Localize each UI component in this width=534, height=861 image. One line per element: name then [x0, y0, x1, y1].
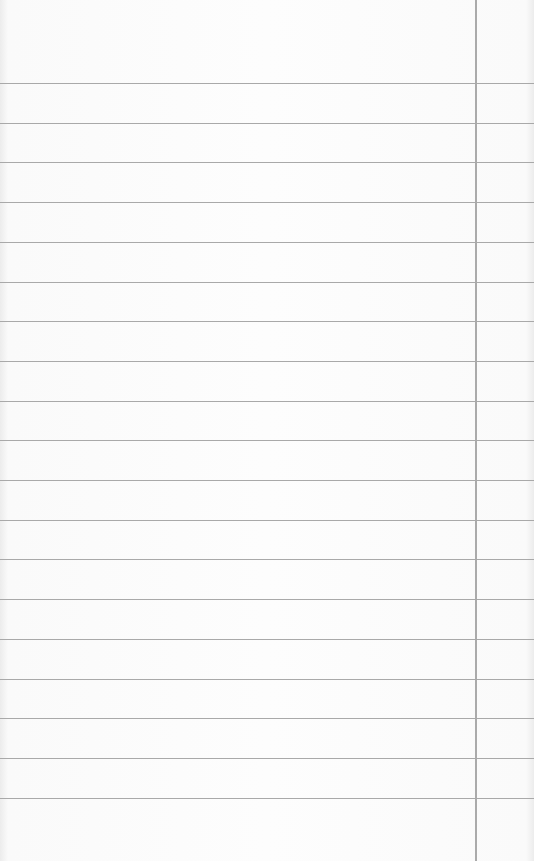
ruled-line — [0, 599, 534, 600]
ruled-line — [0, 202, 534, 203]
ruled-line — [0, 361, 534, 362]
ruled-line — [0, 718, 534, 719]
ruled-line — [0, 639, 534, 640]
ruled-line — [0, 520, 534, 521]
ruled-line — [0, 798, 534, 799]
ruled-line — [0, 282, 534, 283]
ruled-line — [0, 758, 534, 759]
ruled-line — [0, 83, 534, 84]
margin-line — [475, 0, 477, 861]
ruled-line — [0, 440, 534, 441]
ruled-line — [0, 559, 534, 560]
ruled-line — [0, 679, 534, 680]
ruled-line — [0, 162, 534, 163]
ruled-line — [0, 321, 534, 322]
ruled-line — [0, 401, 534, 402]
ruled-line — [0, 242, 534, 243]
ruled-line — [0, 123, 534, 124]
ruled-line — [0, 480, 534, 481]
lined-paper — [0, 0, 534, 861]
